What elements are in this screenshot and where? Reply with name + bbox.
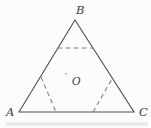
vertex-label-B: B: [75, 3, 84, 17]
figure-background: [0, 0, 151, 128]
vertex-label-C: C: [139, 105, 148, 119]
point-label-O: O: [72, 75, 81, 87]
scan-artifact-bar: [6, 123, 148, 126]
figure-svg: A B C ″ O: [0, 0, 151, 128]
geometry-figure: A B C ″ O: [0, 0, 151, 128]
vertex-label-A: A: [5, 105, 14, 119]
